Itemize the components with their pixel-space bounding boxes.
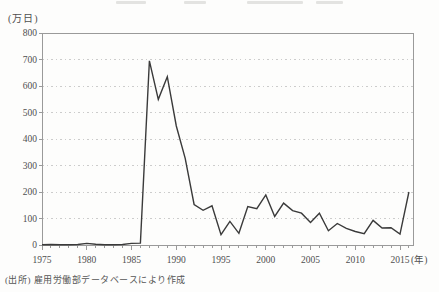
- svg-text:100: 100: [23, 214, 38, 224]
- svg-text:1980: 1980: [77, 255, 96, 265]
- line-chart: 0100200300400500600700800197519801985199…: [0, 0, 439, 292]
- svg-text:500: 500: [23, 108, 38, 118]
- svg-text:2000: 2000: [256, 255, 275, 265]
- svg-text:200: 200: [23, 187, 38, 197]
- svg-text:800: 800: [23, 28, 38, 38]
- svg-text:1985: 1985: [122, 255, 141, 265]
- svg-text:1975: 1975: [33, 255, 52, 265]
- svg-text:1990: 1990: [167, 255, 186, 265]
- svg-text:1995: 1995: [212, 255, 231, 265]
- source-note: (出所) 雇用労働部データベースにより作成: [5, 274, 186, 286]
- svg-text:2015: 2015: [391, 255, 410, 265]
- svg-text:400: 400: [23, 134, 38, 144]
- svg-text:0: 0: [32, 240, 37, 250]
- figure-canvas: (万日) 01002003004005006007008001975198019…: [0, 0, 439, 292]
- svg-text:600: 600: [23, 81, 38, 91]
- svg-text:2010: 2010: [346, 255, 365, 265]
- svg-text:300: 300: [23, 161, 38, 171]
- svg-text:2005: 2005: [301, 255, 320, 265]
- svg-text:700: 700: [23, 55, 38, 65]
- svg-text:(年): (年): [411, 254, 427, 266]
